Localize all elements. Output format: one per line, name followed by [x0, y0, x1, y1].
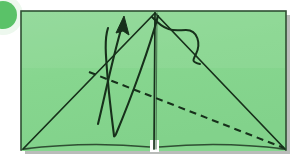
- paper-highlight: [22, 12, 285, 68]
- origami-diagram-svg: [0, 0, 299, 163]
- center-vertical-fold: [154, 13, 155, 149]
- origami-figure: Origami fold step diagram Green square o…: [0, 0, 299, 163]
